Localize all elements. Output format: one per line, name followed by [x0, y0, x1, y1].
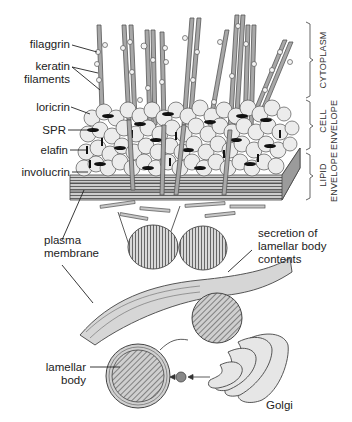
label-loricrin: loricrin — [10, 101, 70, 114]
golgi-shape — [208, 334, 288, 402]
label-keratin: keratin — [10, 60, 70, 73]
diagram-canvas: filaggrin keratin filaments loricrin SPR… — [0, 0, 352, 422]
cell-envelope-spheres — [76, 100, 299, 176]
label-body: body — [20, 374, 86, 387]
label-lamellar: lamellar — [20, 361, 86, 374]
fusing-lamellar-body-left — [128, 225, 178, 269]
lamellar-sheets — [100, 201, 265, 221]
lamellar-body-shape — [106, 344, 170, 408]
vesicle — [176, 372, 186, 382]
fusing-lamellar-body-lower — [192, 293, 242, 343]
label-lamellar-body-contents: lamellar body — [258, 240, 326, 253]
label-filaments: filaments — [10, 73, 70, 86]
label-spr: SPR — [10, 124, 66, 137]
plasma-membrane-shape — [80, 258, 292, 345]
label-lipid: LIPID — [318, 150, 328, 200]
label-golgi: Golgi — [266, 399, 293, 412]
label-filaggrin: filaggrin — [10, 38, 70, 51]
label-contents: contents — [258, 253, 301, 266]
label-cell: CELL — [318, 96, 328, 146]
fusing-lamellar-body-right — [179, 226, 227, 270]
label-secretion-of: secretion of — [258, 227, 317, 240]
label-involucrin: involucrin — [10, 166, 70, 179]
label-plasma: plasma — [44, 234, 81, 247]
label-elafin: elafin — [10, 144, 68, 157]
label-membrane: membrane — [44, 247, 99, 260]
region-brackets — [306, 22, 313, 200]
label-lipid-envelope: ENVELOPE — [329, 152, 339, 202]
label-cell-envelope: ENVELOPE — [329, 100, 339, 150]
label-cytoplasm: CYTOPLASM — [318, 25, 328, 95]
